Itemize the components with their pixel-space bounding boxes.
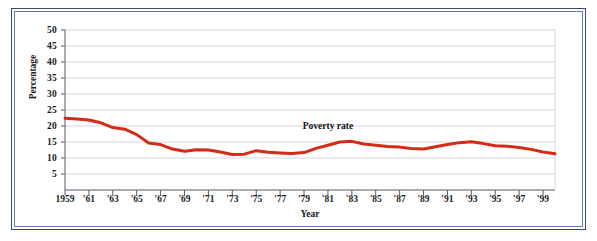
y-tick-label: 40 bbox=[47, 57, 57, 67]
x-axis-tick-labels: 1959'61'63'65'67'69'71'73'75'77'79'81'83… bbox=[65, 194, 555, 210]
y-tick-label: 15 bbox=[47, 137, 57, 147]
series-annotation-label: Poverty rate bbox=[303, 121, 353, 131]
x-tick-label: 1959 bbox=[56, 194, 75, 204]
figure-frame-inner: Percentage 5101520253035404550 Poverty r… bbox=[14, 11, 583, 227]
x-tick-label: '75 bbox=[250, 194, 262, 204]
x-tick-label: '65 bbox=[131, 194, 143, 204]
y-tick-label: 45 bbox=[47, 41, 57, 51]
x-tick-label: '83 bbox=[346, 194, 358, 204]
x-tick-label: '81 bbox=[322, 194, 334, 204]
x-tick-label: '61 bbox=[83, 194, 95, 204]
x-tick-label: '97 bbox=[513, 194, 525, 204]
y-tick-label: 25 bbox=[47, 105, 57, 115]
x-tick-label: '79 bbox=[298, 194, 310, 204]
x-tick-label: '69 bbox=[178, 194, 190, 204]
x-tick-label: '89 bbox=[417, 194, 429, 204]
y-tick-label: 35 bbox=[47, 73, 57, 83]
x-tick-label: '99 bbox=[537, 194, 549, 204]
y-tick-label: 10 bbox=[47, 153, 57, 163]
x-axis-title: Year bbox=[65, 209, 555, 219]
y-tick-label: 30 bbox=[47, 89, 57, 99]
plot-area bbox=[65, 30, 555, 190]
y-axis-tick-labels: 5101520253035404550 bbox=[15, 30, 61, 190]
x-tick-label: '73 bbox=[226, 194, 238, 204]
x-tick-label: '85 bbox=[370, 194, 382, 204]
x-tick-label: '87 bbox=[394, 194, 406, 204]
y-tick-label: 50 bbox=[47, 25, 57, 35]
x-tick-label: '71 bbox=[202, 194, 214, 204]
x-tick-label: '77 bbox=[274, 194, 286, 204]
x-tick-label: '95 bbox=[489, 194, 501, 204]
x-tick-label: '63 bbox=[107, 194, 119, 204]
y-tick-label: 20 bbox=[47, 121, 57, 131]
poverty-rate-line bbox=[65, 30, 555, 190]
y-tick-label: 5 bbox=[52, 169, 57, 179]
x-tick-label: '67 bbox=[155, 194, 167, 204]
x-tick-label: '91 bbox=[441, 194, 453, 204]
figure-frame: Percentage 5101520253035404550 Poverty r… bbox=[11, 8, 586, 230]
x-tick-label: '93 bbox=[465, 194, 477, 204]
